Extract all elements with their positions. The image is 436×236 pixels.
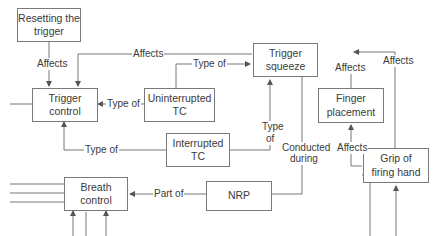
edge-label-during: during	[289, 153, 319, 165]
edge-label-conducted: Conducted	[281, 142, 331, 154]
node-interrupted-tc: Interrupted TC	[166, 133, 230, 167]
node-label: Trigger control	[33, 92, 97, 118]
node-label: Breath control	[65, 181, 127, 207]
node-resetting-the-trigger: Resetting the trigger	[17, 8, 81, 42]
node-label-line: firing hand	[371, 166, 420, 179]
edge-label-type-of: Type of	[192, 58, 227, 70]
node-nrp: NRP	[206, 181, 272, 211]
node-label-line: Finger	[336, 92, 366, 105]
node-label-line: Resetting the	[18, 12, 80, 25]
node-label-line: trigger	[34, 25, 64, 38]
node-grip-of-firing-hand: Grip of firing hand	[363, 148, 429, 183]
edge-label-affects: Affects	[336, 142, 368, 154]
node-trigger-squeeze: Trigger squeeze	[253, 43, 318, 77]
node-label: NRP	[228, 189, 250, 202]
node-label: Trigger squeeze	[254, 47, 317, 73]
edge-label-affects: Affects	[334, 62, 366, 74]
node-breath-control: Breath control	[64, 177, 128, 211]
node-label: Interrupted TC	[167, 137, 229, 163]
edge-label-affects: Affects	[36, 58, 68, 70]
edge-label-type: Type	[261, 121, 285, 133]
node-label: Uninterrupted TC	[145, 92, 214, 118]
edge-label-affects: Affects	[382, 55, 414, 67]
node-label-line: Grip of	[380, 152, 412, 165]
node-trigger-control: Trigger control	[32, 88, 98, 122]
edge-label-type-of: Type of	[84, 144, 119, 156]
edge-label-type-of: Type of	[106, 98, 141, 110]
node-label-line: placement	[327, 106, 375, 119]
node-uninterrupted-tc: Uninterrupted TC	[144, 88, 215, 122]
edge-label-part-of: Part of	[153, 188, 184, 200]
edge-label-of: of	[265, 133, 275, 145]
node-finger-placement: Finger placement	[318, 88, 384, 123]
edge-label-affects: Affects	[132, 48, 164, 60]
